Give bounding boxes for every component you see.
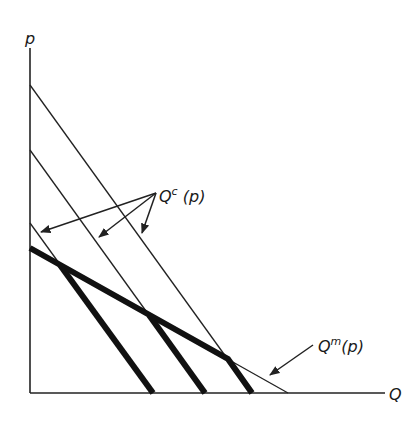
qc-annotation: Qc (p) bbox=[41, 185, 205, 237]
qm-label: Qm(p) bbox=[318, 335, 364, 356]
competitive-supply-lines bbox=[30, 85, 252, 393]
thick-segment-2 bbox=[149, 315, 205, 393]
qc-label: Qc (p) bbox=[159, 185, 205, 206]
qc-arrow-2 bbox=[99, 193, 156, 237]
qm-annotation: Qm(p) bbox=[270, 335, 364, 375]
effective-supply-curve bbox=[30, 248, 252, 393]
x-axis-label: Q bbox=[389, 385, 402, 404]
y-axis-label: p bbox=[24, 29, 35, 48]
thick-segment-1 bbox=[60, 265, 153, 393]
qc-line-1 bbox=[30, 85, 252, 393]
supply-diagram: p Q Qc (p) Q bbox=[0, 0, 420, 421]
qc-arrow-1 bbox=[41, 193, 156, 232]
qm-arrow bbox=[270, 345, 313, 375]
